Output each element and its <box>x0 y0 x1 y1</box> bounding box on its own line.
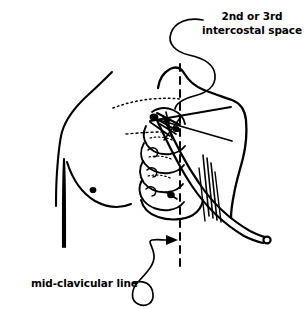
illustration-canvas: 2nd or 3rd intercostal space mid-clavicu… <box>0 0 308 309</box>
chest-tube-insertion-figure: 2nd or 3rd intercostal space mid-clavicu… <box>0 0 308 309</box>
label-midclavicular-text: mid-clavicular line <box>31 277 138 289</box>
label-mid-clavicular-line: mid-clavicular line <box>31 277 138 289</box>
catheter-tip-connector <box>263 237 270 244</box>
clavicle-dotted-line <box>113 98 180 108</box>
label-intercostal-space: 2nd or 3rd intercostal space <box>202 10 302 36</box>
rib-cage <box>140 108 203 219</box>
insertion-needle <box>150 107 232 141</box>
label-intercostal-line2: intercostal space <box>202 24 302 36</box>
breast-contour <box>67 162 131 207</box>
leader-line-midclavicular <box>132 235 178 305</box>
nipple <box>90 187 97 193</box>
axilla-fold <box>64 159 65 247</box>
label-intercostal-line1: 2nd or 3rd <box>221 10 282 22</box>
